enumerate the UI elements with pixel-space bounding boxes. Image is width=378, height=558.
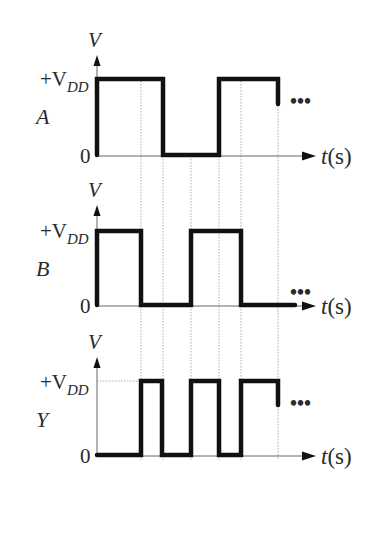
svg-text:+VDD: +VDD: [40, 67, 89, 95]
waveform-a: [97, 79, 278, 155]
svg-text:+VDD: +VDD: [40, 219, 89, 247]
waveform-b: [97, 231, 295, 305]
svg-text:+VDD: +VDD: [40, 370, 89, 398]
signal-label-b: B: [36, 256, 49, 281]
x-axis-arrow-icon: [302, 152, 316, 161]
svg-text:V: V: [88, 330, 103, 354]
svg-text:•••: •••: [290, 392, 311, 414]
y-axis-arrow-icon: [94, 357, 101, 368]
high-level-label: +V: [40, 67, 67, 91]
panel-y: V +VDD Y 0 t(s) •••: [36, 330, 352, 469]
svg-text:t(s): t(s): [321, 144, 352, 169]
svg-text:t(s): t(s): [321, 294, 352, 319]
y-axis-arrow-icon: [94, 55, 101, 66]
zero-label: 0: [80, 144, 91, 168]
x-axis-arrow-icon: [302, 452, 316, 461]
panel-b: V +VDD B 0 t(s) •••: [36, 178, 352, 319]
panel-a: V +VDD A 0 t(s) •••: [34, 28, 352, 169]
svg-text:0: 0: [80, 294, 91, 318]
continuation-dots: •••: [290, 90, 311, 112]
svg-text:V: V: [88, 178, 103, 202]
svg-text:t(s): t(s): [321, 444, 352, 469]
svg-text:0: 0: [80, 444, 91, 468]
y-axis-arrow-icon: [94, 205, 101, 216]
svg-text:•••: •••: [290, 281, 311, 303]
signal-label-y: Y: [36, 407, 51, 432]
timing-diagram: V +VDD A 0 t(s) ••• V +VDD B 0 t(s) ••• …: [0, 0, 378, 558]
signal-label-a: A: [34, 104, 50, 129]
y-axis-label: V: [88, 28, 103, 52]
waveform-y: [97, 381, 278, 455]
